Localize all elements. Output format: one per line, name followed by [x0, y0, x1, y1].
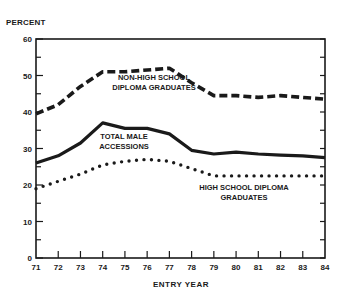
series-total-solid — [36, 123, 325, 163]
x-tick-label: 82 — [276, 263, 285, 272]
y-tick-label: 30 — [23, 145, 32, 154]
annotation-nonhs-line1: NON-HIGH SCHOOL — [118, 73, 191, 82]
x-tick-label: 84 — [321, 263, 330, 272]
x-tick-label: 81 — [254, 263, 263, 272]
annotation-total-line1: TOTAL MALE — [100, 132, 148, 141]
x-tick-label: 71 — [32, 263, 41, 272]
x-tick-label: 78 — [187, 263, 196, 272]
x-tick-label: 79 — [209, 263, 218, 272]
x-tick-label: 76 — [143, 263, 152, 272]
y-tick-label: 20 — [23, 181, 32, 190]
annotation-total-line2: ACCESSIONS — [99, 142, 149, 151]
x-tick-label: 83 — [298, 263, 307, 272]
annotation-hs-line2: GRADUATES — [221, 193, 268, 202]
x-tick-label: 73 — [76, 263, 85, 272]
x-axis-title: ENTRY YEAR — [153, 280, 209, 289]
annotation-hs-line1: HIGH SCHOOL DIPLOMA — [199, 183, 289, 192]
y-tick-label: 50 — [23, 72, 32, 81]
y-tick-label: 0 — [28, 254, 33, 263]
y-tick-label: 60 — [23, 35, 32, 44]
x-tick-label: 74 — [98, 263, 107, 272]
plot-border — [36, 39, 325, 258]
x-tick-label: 72 — [54, 263, 63, 272]
plot-frame — [36, 39, 325, 258]
annotation-nonhs-line2: DIPLOMA GRADUATES — [112, 83, 195, 92]
x-tick-label: 77 — [165, 263, 174, 272]
y-tick-label: 40 — [23, 108, 32, 117]
x-tick-label: 75 — [120, 263, 129, 272]
x-axis: 7172737475767778798081828384 — [32, 251, 330, 272]
y-tick-label: 10 — [23, 218, 32, 227]
line-chart: 0102030405060 71727374757677787980818283… — [0, 0, 345, 304]
x-tick-label: 80 — [232, 263, 241, 272]
